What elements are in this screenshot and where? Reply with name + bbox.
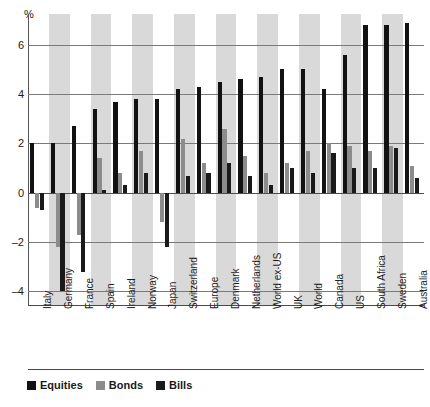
bar-equities-sweden [384, 25, 388, 193]
bar-equities-canada [322, 89, 326, 193]
bar-bonds-denmark [222, 129, 226, 193]
bar-equities-denmark [218, 82, 222, 193]
bar-bills-australia [415, 178, 419, 193]
x-tick-label-uk: UK [293, 295, 304, 309]
bar-equities-netherlands [238, 79, 242, 192]
bar-bills-us [352, 168, 356, 193]
bar-equities-japan [155, 99, 159, 193]
x-tick-label-italy: Italy [42, 291, 53, 309]
x-tick-label-south-africa: South Africa [376, 255, 387, 309]
bar-bills-world-ex-us [269, 185, 273, 192]
legend-label: Bonds [109, 379, 143, 391]
bar-bills-canada [331, 153, 335, 192]
x-tick-label-world: World [313, 283, 324, 309]
bar-bonds-germany [56, 193, 60, 247]
bar-bills-italy [40, 193, 44, 210]
x-tick-label-canada: Canada [334, 274, 345, 309]
bar-bonds-switzerland [181, 139, 185, 193]
bar-equities-ireland [113, 102, 117, 193]
legend-item-equities[interactable]: Equities [27, 379, 83, 391]
legend-label: Bills [169, 379, 192, 391]
legend-swatch-equities [27, 381, 36, 390]
legend-swatch-bonds [96, 381, 105, 390]
x-tick-label-france: France [84, 278, 95, 309]
bar-equities-spain [93, 109, 97, 193]
bar-bonds-world-ex-us [264, 173, 268, 193]
bar-bonds-uk [285, 163, 289, 193]
bar-bills-europe [206, 173, 210, 193]
plot-area [28, 14, 424, 305]
bar-equities-switzerland [176, 89, 180, 193]
bar-equities-australia [405, 23, 409, 193]
x-tick-label-norway: Norway [147, 275, 158, 309]
x-tick-label-ireland: Ireland [126, 278, 137, 309]
bar-equities-europe [197, 87, 201, 193]
y-tick-label: 4 [0, 88, 24, 100]
legend-item-bills[interactable]: Bills [156, 379, 192, 391]
bar-bonds-france [77, 193, 81, 235]
bar-equities-germany [51, 143, 55, 192]
bar-bonds-australia [410, 166, 414, 193]
bar-equities-uk [280, 69, 284, 192]
x-tick-label-australia: Australia [418, 270, 429, 309]
x-tick-label-us: US [355, 295, 366, 309]
bar-equities-world [301, 69, 305, 192]
x-tick-label-world-ex-us: World ex-US [272, 253, 283, 310]
bar-bills-uk [290, 168, 294, 193]
bar-bills-norway [144, 173, 148, 193]
bar-bonds-world [306, 151, 310, 193]
bar-bills-denmark [227, 163, 231, 193]
bar-bills-ireland [123, 185, 127, 192]
legend-divider-rule [28, 369, 424, 370]
bar-bonds-canada [327, 143, 331, 192]
chart-legend: EquitiesBondsBills [27, 379, 192, 391]
y-tick-label: –4 [0, 285, 24, 297]
bar-bills-world [311, 173, 315, 193]
bar-bills-sweden [394, 148, 398, 192]
bar-equities-south-africa [363, 25, 367, 193]
bar-equities-france [72, 126, 76, 193]
bar-equities-world-ex-us [259, 77, 263, 193]
zero-baseline [28, 193, 424, 194]
bar-bonds-europe [202, 163, 206, 193]
bar-bonds-japan [160, 193, 164, 223]
gridline [28, 242, 424, 243]
bar-bonds-norway [139, 151, 143, 193]
bar-bonds-us [347, 146, 351, 193]
legend-swatch-bills [156, 381, 165, 390]
bar-equities-norway [134, 99, 138, 193]
bar-bills-south-africa [373, 168, 377, 193]
bar-bonds-italy [35, 193, 39, 208]
x-tick-label-switzerland: Switzerland [188, 257, 199, 309]
x-tick-label-netherlands: Netherlands [251, 255, 262, 309]
bar-bills-france [81, 193, 85, 272]
bar-bonds-spain [97, 158, 101, 193]
legend-item-bonds[interactable]: Bonds [96, 379, 143, 391]
x-tick-label-germany: Germany [63, 268, 74, 309]
x-tick-label-denmark: Denmark [230, 268, 241, 309]
x-tick-label-sweden: Sweden [397, 273, 408, 309]
x-tick-label-europe: Europe [209, 277, 220, 309]
bar-bonds-netherlands [243, 156, 247, 193]
y-axis-line [28, 14, 29, 305]
x-tick-label-japan: Japan [167, 282, 178, 309]
bar-equities-italy [30, 143, 34, 192]
bar-bills-switzerland [186, 176, 190, 193]
bar-bonds-ireland [118, 173, 122, 193]
y-tick-label: 2 [0, 137, 24, 149]
bar-bonds-sweden [389, 146, 393, 193]
bar-bills-netherlands [248, 176, 252, 193]
bar-bills-spain [102, 190, 106, 192]
bar-bills-japan [165, 193, 169, 247]
y-tick-label: –2 [0, 236, 24, 248]
y-tick-label: 6 [0, 39, 24, 51]
x-tick-label-spain: Spain [105, 283, 116, 309]
bar-bonds-south-africa [368, 151, 372, 193]
y-tick-label: 0 [0, 187, 24, 199]
bar-chart: % 6420–2–4 ItalyGermanyFranceSpainIrelan… [0, 0, 430, 407]
legend-label: Equities [40, 379, 83, 391]
bar-equities-us [343, 55, 347, 193]
